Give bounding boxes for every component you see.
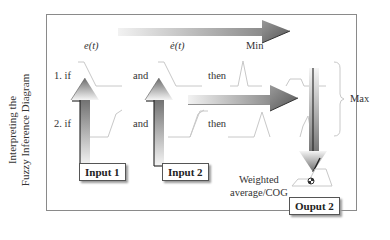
input1-up-arrow (71, 78, 99, 166)
rule2-output-mf (190, 111, 208, 137)
min-arrow (118, 20, 290, 43)
defuzz-line1: Weighted (230, 173, 288, 186)
max-operator-label: Max (350, 93, 369, 104)
input2-variable-label: ė(t) (170, 40, 185, 51)
min-operator-label: Min (246, 40, 264, 51)
rule1-connector: and (133, 70, 148, 81)
rule2-output-mf-tri (228, 112, 270, 137)
rule2-connector: and (133, 118, 148, 129)
input2-up-arrow (145, 78, 173, 166)
rule1-aggregated-mf (286, 79, 326, 86)
output-box: Ouput 2 (289, 197, 340, 215)
input2-box: Input 2 (162, 163, 209, 181)
rule2-input1-mf (90, 110, 122, 137)
implication-arrow (188, 85, 298, 111)
aggregation-down-arrow (298, 68, 328, 174)
defuzz-line2: average/COG (230, 186, 288, 199)
max-brace (334, 62, 344, 136)
rule1-prefix: 1. if (54, 70, 71, 81)
input1-box: Input 1 (79, 163, 126, 181)
input1-variable-label: e(t) (84, 40, 99, 51)
defuzz-label: Weighted average/COG (230, 173, 288, 199)
output-aggregate-shape (292, 169, 332, 186)
rule1-input2-mf (158, 62, 202, 86)
rule1-consequent: then (208, 70, 226, 81)
rule2-consequent: then (208, 118, 226, 129)
rule1-membership-functions (78, 61, 326, 86)
rule2-prefix: 2. if (54, 118, 71, 129)
rule2-membership-functions (90, 110, 312, 137)
rule1-output-mf (230, 61, 262, 86)
